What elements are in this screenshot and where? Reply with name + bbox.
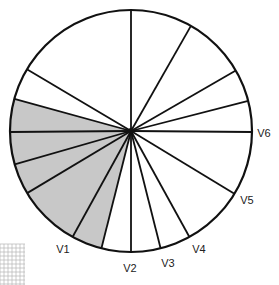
lead-diagram: V1 V2 V3 V4 V5 V6 bbox=[0, 0, 279, 285]
spoke-line bbox=[131, 26, 191, 131]
label-v4: V4 bbox=[192, 244, 205, 255]
label-v5: V5 bbox=[240, 195, 253, 206]
spoke-line bbox=[10, 131, 131, 132]
spoke-line bbox=[131, 131, 161, 248]
label-v1: V1 bbox=[56, 244, 69, 255]
label-v2: V2 bbox=[123, 263, 136, 274]
spoke-line bbox=[131, 131, 252, 132]
spoke-line bbox=[131, 131, 234, 194]
spoke-line bbox=[131, 131, 189, 237]
lead-circle-svg bbox=[0, 0, 279, 285]
label-v3: V3 bbox=[161, 258, 174, 269]
label-v6: V6 bbox=[257, 128, 270, 139]
spoke-line bbox=[131, 101, 248, 131]
spoke-line bbox=[131, 71, 236, 131]
ecg-grid-paper bbox=[0, 244, 25, 285]
center-point bbox=[128, 128, 134, 134]
